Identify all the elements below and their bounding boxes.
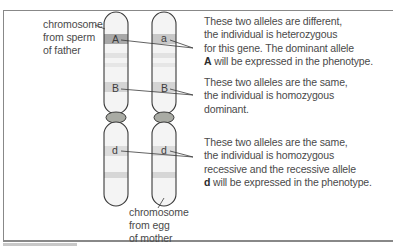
allele-a-maternal: a [161, 32, 167, 45]
allele-A-paternal: A [112, 33, 119, 46]
paternal-centromere [106, 112, 126, 123]
allele-d-maternal: d [161, 144, 167, 157]
paternal-chromosome-label: chromosome from sperm of father [43, 18, 103, 57]
annotation-gene-D: These two alleles are the same, the indi… [204, 136, 372, 189]
allele-B-paternal: B [112, 82, 119, 95]
allele-B-maternal: B [161, 82, 168, 95]
maternal-chromosome-label: chromosome from egg of mother [129, 206, 189, 245]
annotation-gene-A: These two alleles are different, the ind… [204, 15, 373, 68]
allele-d-paternal: d [112, 144, 118, 157]
maternal-centromere [154, 112, 174, 123]
annotation-gene-B: These two alleles are the same, the indi… [204, 76, 348, 116]
